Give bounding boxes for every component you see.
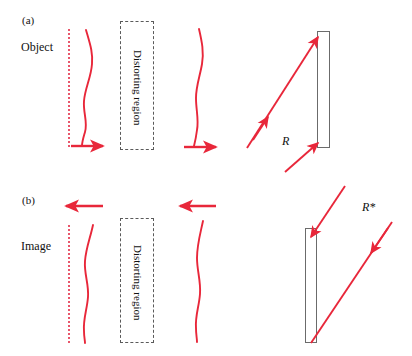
panel-a-side-label: Object [21,40,53,55]
wavefront-curve-a2 [194,29,203,146]
distorting-region-box-a: Distorting region [120,21,154,150]
ray-a-lower [285,143,318,172]
panel-b-label: (b) [22,194,35,206]
ray-a-upper [247,37,318,148]
distorting-region-label-b: Distorting region [132,245,144,320]
reference-dotted-line-a [68,29,70,147]
panel-b-side-label: Image [21,239,51,254]
distorting-region-label-a: Distorting region [132,50,144,125]
figure-canvas: (a) Object Distorting region R (b) Image… [0,0,412,356]
ray-a-upper-midarrow [253,117,268,140]
wavefront-curve-b2 [196,221,203,342]
vector-overlay [0,0,412,356]
mirror-r-star [305,228,317,343]
reference-dotted-line-b [68,225,70,343]
ray-b-lower-midarrow [371,228,388,253]
ray-b-lower [311,222,392,343]
wavefront-curve-b1 [84,225,93,343]
mirror-r [317,31,330,148]
ray-label-r-star-text: R* [362,200,375,214]
ray-label-r-star: R* [362,200,375,215]
distorting-region-box-b: Distorting region [120,218,154,343]
ray-label-r: R [282,134,289,149]
wavefront-curve-a1 [82,30,92,146]
panel-a-label: (a) [22,14,34,26]
